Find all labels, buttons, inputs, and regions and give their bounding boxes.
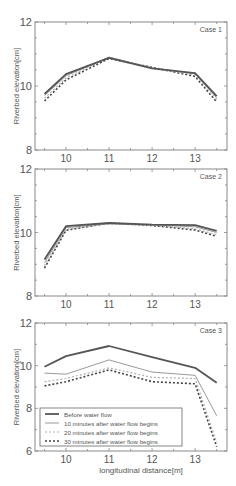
case-label: Case 2	[200, 173, 222, 180]
x-tick-label: 12	[147, 299, 159, 310]
series-line-0	[45, 346, 217, 383]
series-line-1	[45, 360, 217, 416]
x-tick-label: 10	[60, 454, 72, 465]
plot-frame	[35, 169, 227, 296]
y-tick-label: 8	[26, 402, 32, 414]
x-tick-label: 11	[104, 153, 115, 164]
figure: 1011121381012Riverbed elevation[cm]Case …	[0, 0, 236, 486]
y-tick-label: 10	[20, 360, 32, 372]
x-tick-label: 12	[147, 153, 159, 164]
chart-panel-case-3: 10111213681012Riverbed elevation[cm]Case…	[12, 317, 227, 475]
plot-frame	[35, 22, 227, 150]
chart-panel-case-1: 1011121381012Riverbed elevation[cm]Case …	[12, 16, 227, 164]
y-tick-label: 12	[20, 16, 32, 28]
x-tick-label: 10	[60, 299, 72, 310]
chart-panel-case-2: 1011121381012Riverbed elevation[cm]Case …	[12, 163, 227, 310]
x-axis-label: longitudinal distance[m]	[99, 466, 183, 475]
series-line-3	[45, 223, 217, 268]
y-axis-label: Riverbed elevation[cm]	[12, 48, 21, 124]
y-axis-label: Riverbed elevation[cm]	[12, 194, 21, 270]
y-tick-label: 10	[20, 227, 32, 239]
y-tick-label: 8	[26, 290, 32, 302]
x-tick-label: 12	[147, 454, 159, 465]
legend-label: 30 minutes after water flow begins	[64, 438, 158, 445]
legend-label: 10 minutes after water flow begins	[64, 420, 158, 427]
case-label: Case 3	[200, 327, 222, 334]
x-tick-label: 11	[104, 299, 115, 310]
y-tick-label: 12	[20, 163, 32, 175]
y-axis-label: Riverbed elevation[cm]	[12, 349, 21, 425]
series-line-0	[45, 223, 217, 260]
y-tick-label: 12	[20, 317, 32, 329]
chart-svg: 1011121381012Riverbed elevation[cm]Case …	[0, 0, 236, 486]
series-line-0	[45, 58, 217, 96]
legend-label: 20 minutes after water flow begins	[64, 429, 158, 436]
y-tick-label: 6	[26, 445, 32, 457]
x-tick-label: 13	[190, 153, 202, 164]
x-tick-label: 10	[60, 153, 72, 164]
y-tick-label: 10	[20, 80, 32, 92]
case-label: Case 1	[200, 26, 222, 33]
x-tick-label: 11	[104, 454, 115, 465]
x-tick-label: 13	[190, 299, 202, 310]
x-tick-label: 13	[190, 454, 202, 465]
legend-label: Before water flow	[64, 411, 112, 418]
legend: Before water flow10 minutes after water …	[40, 408, 182, 446]
series-line-3	[45, 59, 217, 103]
y-tick-label: 8	[26, 144, 32, 156]
